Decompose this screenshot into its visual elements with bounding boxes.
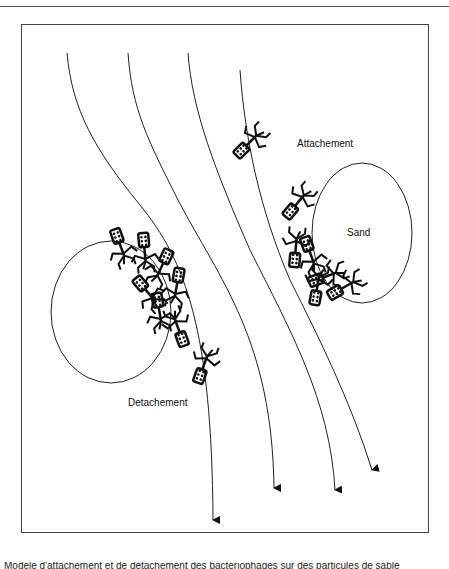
phage-attaching: [227, 117, 275, 165]
sand-label: Sand: [347, 227, 370, 238]
attachment-label: Attachement: [297, 138, 353, 149]
bacteriophage-flow-diagram: [0, 0, 449, 569]
figure-caption: Modèle d'attachement et de détachement d…: [0, 562, 449, 569]
detachment-label: Detachement: [128, 397, 187, 408]
sand-grains: [51, 163, 412, 383]
phages-left-cluster: [101, 225, 197, 351]
flow-lines: [67, 53, 372, 520]
phages-right-cluster: [275, 177, 370, 308]
phage-detaching: [184, 340, 224, 387]
